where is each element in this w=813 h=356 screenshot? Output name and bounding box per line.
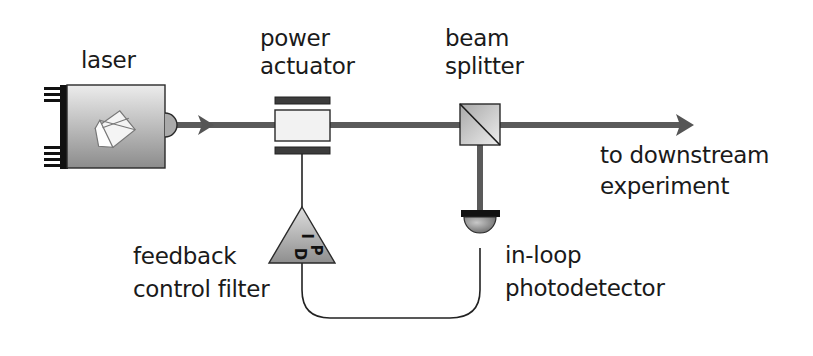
output-label: to downstream experiment [600,140,769,202]
power-actuator-label: power actuator [260,24,355,80]
pid-letter-d: D [291,248,309,260]
photodetector-icon [461,210,500,233]
photodetector-label-line: in-loop [505,239,665,272]
power-actuator-icon [275,97,330,154]
photodetector-label-line: photodetector [505,272,665,305]
feedback-filter-label-line: control filter [133,273,269,306]
feedback-filter-label: feedback control filter [133,240,269,306]
photodetector-label: in-loop photodetector [505,239,665,305]
power-actuator-label-line: power [260,24,355,52]
beam-splitter-label-line: splitter [445,52,524,80]
output-label-line: experiment [600,171,769,202]
feedback-filter-label-line: feedback [133,240,269,273]
pid-filter-icon: I D P [269,207,335,263]
output-label-line: to downstream [600,140,769,171]
electrical-wiring [302,154,480,318]
beam-splitter-label: beam splitter [445,24,524,80]
pid-letter-i: I [298,233,316,239]
feedback-loop-diagram: I D P laser power actuator beam splitter… [0,0,813,356]
laser-label-line: laser [81,46,136,74]
power-actuator-label-line: actuator [260,52,355,80]
beam-splitter-label-line: beam [445,24,524,52]
beam-splitter-icon [460,104,500,145]
pid-letter-p: P [307,245,325,256]
laser-label: laser [81,46,136,74]
laser-icon [44,85,177,169]
